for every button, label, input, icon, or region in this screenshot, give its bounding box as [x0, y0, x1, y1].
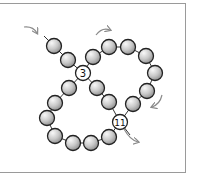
bead	[84, 136, 99, 151]
bead	[126, 97, 141, 112]
bead	[48, 96, 63, 111]
beads	[40, 39, 163, 151]
bead	[139, 49, 154, 64]
bead	[48, 129, 63, 144]
bead	[90, 81, 105, 96]
arrow-top-icon	[96, 29, 110, 35]
bead	[102, 130, 117, 145]
bead	[102, 95, 117, 110]
arrow-entry-icon	[24, 27, 37, 33]
bead	[47, 39, 62, 54]
bead	[140, 84, 155, 99]
bead	[61, 53, 76, 68]
arrow-right-icon	[152, 95, 162, 107]
bead-number-label: 3	[80, 68, 86, 79]
bead	[66, 136, 81, 151]
bead	[86, 50, 101, 65]
bead	[121, 40, 136, 55]
bead	[40, 111, 55, 126]
numbered-bead-11: 11	[113, 115, 128, 130]
bead	[102, 40, 117, 55]
bead	[148, 66, 163, 81]
numbered-bead-3: 3	[76, 66, 91, 81]
bead	[62, 81, 77, 96]
bead-labels: 311	[76, 66, 128, 130]
arrow-exit-icon	[124, 129, 138, 142]
bead-diagram: 311	[0, 0, 197, 183]
bead-number-label: 11	[114, 118, 125, 128]
